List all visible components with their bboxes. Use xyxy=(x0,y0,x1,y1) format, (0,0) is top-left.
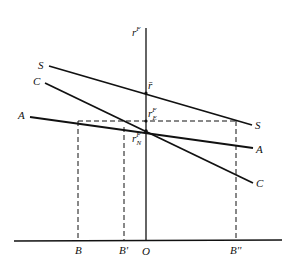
point-r-N xyxy=(144,129,148,133)
x-label-O: O xyxy=(142,245,150,257)
label-A-start: A xyxy=(17,109,25,121)
point-r-bar xyxy=(144,91,147,94)
label-C-start: C xyxy=(33,75,41,87)
x-label-B-prime: B' xyxy=(119,244,129,256)
x-label-B-double-prime: B'' xyxy=(230,244,242,256)
dashed-guides xyxy=(78,121,236,240)
label-r-E: rFE xyxy=(148,106,158,122)
label-r-bar: r̄ xyxy=(148,79,153,91)
label-C-end: C xyxy=(256,177,264,189)
x-label-B: B xyxy=(75,244,82,256)
x-axis xyxy=(14,240,282,241)
point-r-E xyxy=(144,119,147,122)
label-S-start: S xyxy=(38,59,44,71)
curve-A xyxy=(30,117,253,148)
label-A-end: A xyxy=(255,143,263,155)
label-S-end: S xyxy=(255,119,261,131)
y-axis-label: rF xyxy=(132,25,141,38)
label-r-N: rFN xyxy=(132,131,142,147)
diagram-canvas: rF S S C C A A r̄ rFE rFN B B' O B'' xyxy=(0,0,297,268)
